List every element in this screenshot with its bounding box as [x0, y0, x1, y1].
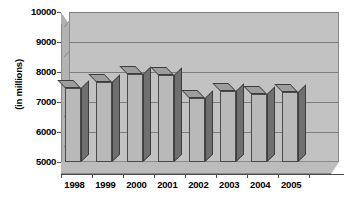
- bar-chart: (in millions) 5000600070008000900010000 …: [0, 0, 348, 201]
- bar-front-face: [189, 98, 205, 162]
- bar-front-face: [65, 88, 81, 162]
- y-axis-tick-mark: [57, 72, 61, 73]
- bar-side-face: [112, 74, 120, 162]
- bar-side-face: [205, 90, 213, 162]
- x-axis-tick-mark: [61, 174, 62, 178]
- x-axis-tick-label: 2002: [183, 179, 214, 190]
- y-axis-tick-labels: 5000600070008000900010000: [12, 0, 56, 201]
- x-axis-tick-label: 1998: [59, 179, 90, 190]
- y-axis-tick-label: 7000: [14, 97, 56, 107]
- x-axis-tick-mark: [123, 174, 124, 178]
- bar: [251, 94, 267, 162]
- x-axis-tick-label: 2001: [152, 179, 183, 190]
- y-axis-tick-label: 6000: [14, 127, 56, 137]
- x-axis-tick-label: 2000: [121, 179, 152, 190]
- bar-front-face: [251, 94, 267, 162]
- y-axis-tick-mark: [57, 132, 61, 133]
- y-axis-tick-mark: [57, 42, 61, 43]
- x-axis-tick-label: 2003: [214, 179, 245, 190]
- x-axis-tick-mark: [92, 174, 93, 178]
- bar-side-face: [81, 80, 89, 162]
- bar: [282, 92, 298, 162]
- gridline: [69, 72, 339, 73]
- y-axis-tick-label: 8000: [14, 67, 56, 77]
- plot-floor-bevel: [331, 162, 339, 174]
- bar-side-face: [174, 67, 182, 162]
- y-axis-tick-label: 9000: [14, 37, 56, 47]
- bar-front-face: [127, 74, 143, 162]
- plot-floor: [61, 162, 331, 174]
- bar: [127, 74, 143, 162]
- bar: [220, 91, 236, 162]
- x-axis-tick-mark: [216, 174, 217, 178]
- bar-front-face: [220, 91, 236, 162]
- bar-front-face: [282, 92, 298, 162]
- plot-area: [61, 12, 339, 174]
- gridline: [69, 12, 339, 13]
- gridline: [69, 42, 339, 43]
- x-axis-tick-mark: [309, 174, 310, 178]
- x-axis-tick-mark: [278, 174, 279, 178]
- y-axis-tick-mark: [57, 102, 61, 103]
- bar-side-face: [236, 83, 244, 162]
- bar: [65, 88, 81, 162]
- bar-front-face: [158, 75, 174, 162]
- bar-side-face: [267, 86, 275, 162]
- y-axis-tick-label: 5000: [14, 157, 56, 167]
- bar: [96, 82, 112, 162]
- x-axis-tick-label: 1999: [90, 179, 121, 190]
- bar: [158, 75, 174, 162]
- x-axis-line: [61, 174, 344, 175]
- x-axis-tick-mark: [247, 174, 248, 178]
- x-axis-tick-mark: [185, 174, 186, 178]
- bar-front-face: [96, 82, 112, 162]
- x-axis-tick-label: 2004: [245, 179, 276, 190]
- y-axis-tick-label: 10000: [14, 7, 56, 17]
- x-axis-tick-label: 2005: [276, 179, 307, 190]
- bar: [189, 98, 205, 162]
- bar-side-face: [143, 66, 151, 162]
- y-axis-tick-mark: [57, 162, 61, 163]
- x-axis-tick-mark: [154, 174, 155, 178]
- y-axis-tick-mark: [57, 12, 61, 13]
- bar-side-face: [298, 84, 306, 162]
